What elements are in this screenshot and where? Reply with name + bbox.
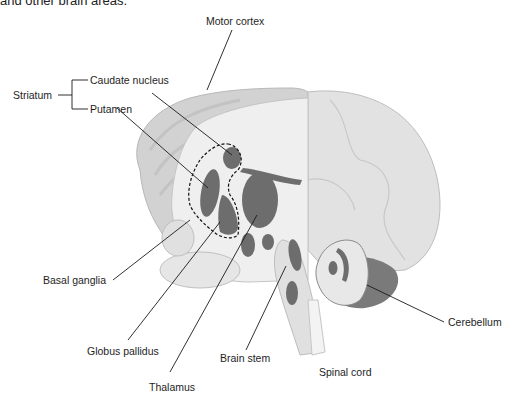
label-brain-stem: Brain stem: [220, 352, 270, 364]
thalamus: [242, 172, 278, 228]
label-thalamus: Thalamus: [149, 381, 195, 393]
label-motor-cortex: Motor cortex: [206, 15, 264, 27]
brainstem-nucleus-2: [286, 281, 298, 305]
label-globus-pallidus: Globus pallidus: [87, 345, 159, 357]
label-caudate-nucleus: Caudate nucleus: [90, 74, 169, 86]
label-spinal-cord: Spinal cord: [319, 366, 372, 378]
cerebellar-nucleus-1: [329, 261, 338, 275]
nucleus-2: [262, 234, 274, 250]
label-striatum: Striatum: [13, 89, 52, 101]
temporal-lobe-left: [160, 252, 240, 288]
label-basal-ganglia: Basal ganglia: [43, 274, 106, 286]
leader-motor-cortex: [207, 30, 232, 90]
label-putamen: Putamen: [90, 103, 132, 115]
brain-diagram: [0, 0, 514, 405]
label-cerebellum: Cerebellum: [448, 316, 502, 328]
striatum-bracket: [72, 80, 88, 109]
nucleus-1: [241, 233, 255, 257]
